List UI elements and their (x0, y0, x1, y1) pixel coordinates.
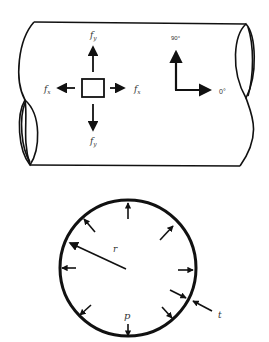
fy-bottom-label: fy (89, 136, 97, 148)
pressure-label: p (124, 310, 131, 321)
angle-90-label: 90° (171, 35, 181, 41)
pressure-arrow-icon (80, 305, 91, 315)
pressure-arrow-icon (170, 290, 186, 298)
fx-right-label: fx (133, 84, 141, 95)
pressure-arrow-icon (160, 226, 173, 240)
pipe-cross-section (60, 200, 212, 336)
fx-left-label: fx (43, 84, 51, 95)
pipe-stress-diagram: fy fy fx fx 90° 0° r p t (0, 0, 269, 342)
stress-element-square (82, 79, 104, 97)
pressure-arrow-icon (162, 307, 172, 318)
stress-element (58, 47, 124, 130)
thickness-label: t (218, 310, 222, 320)
orientation-axes (175, 52, 210, 90)
radius-arrow-icon (70, 243, 126, 269)
fy-top-label: fy (89, 30, 97, 42)
pressure-arrow-icon (84, 219, 95, 232)
angle-0-label: 0° (219, 88, 226, 95)
radius-label: r (113, 244, 118, 254)
thickness-arrow-icon (193, 301, 212, 311)
